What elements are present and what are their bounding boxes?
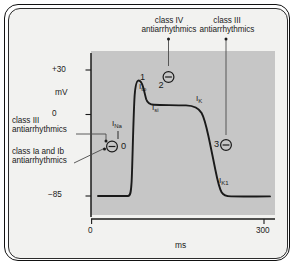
current-label-i-na: INa [112,120,122,129]
plot-area-panel [91,51,275,215]
x-axis-title: ms [175,241,186,250]
current-i-k1-sub: K1 [221,180,228,186]
y-axis-title: mV [55,88,68,97]
action-potential-figure: class IV antiarrhythmics class III antia… [0,0,297,268]
current-label-i-k1: IK1 [219,177,229,186]
phase-label-3: 3 [214,139,219,149]
current-label-i-to: Ito [139,83,146,92]
callout-class-iii-left: class III antiarrhythmics [12,116,78,134]
callout-class-ia-ib: class Ia and Ib antiarrhythmics [12,147,84,165]
current-label-i-k: IK [196,95,202,104]
y-tick-label-zero: 0 [52,109,83,118]
callout-class-iii-top: class III antiarrhythmics [186,16,268,34]
y-tick-label-minus85: −85 [48,190,83,199]
callout-class-iii-top-line1: class III [186,16,268,25]
x-tick-label-300: 300 [256,226,270,235]
callout-class-iii-top-line2: antiarrhythmics [186,25,268,34]
callout-class-ia-ib-line2: antiarrhythmics [12,156,84,165]
callout-class-iii-left-line2: antiarrhythmics [12,125,78,134]
current-i-to-sub: to [141,86,146,92]
y-tick-label-plus30: +30 [52,65,83,74]
current-label-i-si: Isi [152,104,159,113]
phase-label-2: 2 [159,80,164,90]
current-i-na-sub: Na [114,123,122,129]
current-i-k-sub: K [198,98,202,104]
x-tick-label-zero: 0 [88,226,93,235]
callout-class-ia-ib-line1: class Ia and Ib [12,147,84,156]
phase-label-1: 1 [140,72,145,82]
phase-label-0: 0 [121,141,126,151]
current-i-si-sub: si [154,107,158,113]
